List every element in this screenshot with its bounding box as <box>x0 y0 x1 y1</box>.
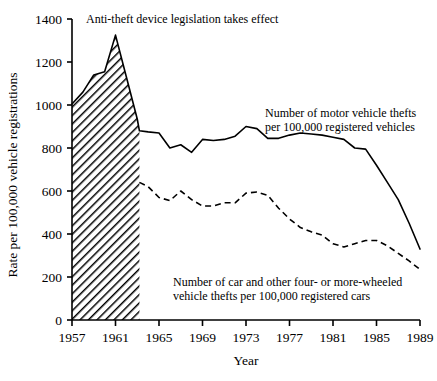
y-axis-tick-label: 200 <box>42 270 63 285</box>
x-axis-tick-label: 1961 <box>102 330 129 345</box>
x-axis-tick-label: 1989 <box>407 330 434 345</box>
vehicle-theft-rate-chart: 0200400600800100012001400 19571961196519… <box>0 0 437 381</box>
motor-vehicle-thefts-label-line-2: per 100,000 registered vehicles <box>265 120 415 134</box>
y-axis-tick-label: 1200 <box>35 55 62 70</box>
y-axis-tick-label: 600 <box>42 184 63 199</box>
y-axis-tick-label: 0 <box>55 313 62 328</box>
x-axis-title: Year <box>234 353 259 368</box>
y-axis-tick-label: 800 <box>42 141 63 156</box>
legislation-annotation: Anti-theft device legislation takes effe… <box>86 12 279 26</box>
plot-background <box>0 0 437 381</box>
y-axis-tick-label: 1400 <box>35 12 62 27</box>
car-four-wheeled-thefts-label-line-1: Number of car and other four- or more-wh… <box>173 275 402 289</box>
car-four-wheeled-thefts-label-line-2: vehicle thefts per 100,000 registered ca… <box>173 289 371 303</box>
car-four-wheeled-thefts-label: Number of car and other four- or more-wh… <box>173 275 402 303</box>
x-axis-tick-label: 1981 <box>320 330 347 345</box>
motor-vehicle-thefts-label-line-1: Number of motor vehicle thefts <box>265 106 417 120</box>
x-axis-tick-label: 1985 <box>363 330 390 345</box>
x-axis-tick-labels: 195719611965196919731977198119851989 <box>59 330 434 345</box>
x-axis-tick-label: 1977 <box>276 330 303 345</box>
y-axis-tick-label: 1000 <box>35 98 62 113</box>
x-axis-tick-label: 1965 <box>146 330 173 345</box>
y-axis-title: Rate per 100,000 vehicle registrations <box>5 72 20 277</box>
x-axis-tick-label: 1969 <box>189 330 216 345</box>
x-axis-tick-label: 1973 <box>233 330 260 345</box>
x-axis-tick-label: 1957 <box>59 330 86 345</box>
chart-canvas: 0200400600800100012001400 19571961196519… <box>0 0 437 381</box>
motor-vehicle-thefts-label: Number of motor vehicle thefts per 100,0… <box>265 106 417 134</box>
y-axis-tick-label: 400 <box>42 227 63 242</box>
